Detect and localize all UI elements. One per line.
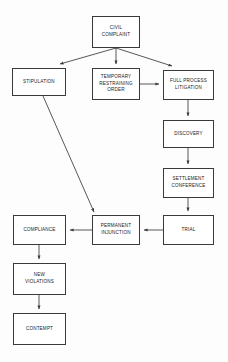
- node-label-permanent-injunction: PERMANENT INJUNCTION: [99, 223, 133, 237]
- node-label-discovery: DISCOVERY: [172, 131, 205, 138]
- edge-complaint-litigation: [116, 48, 172, 66]
- flowchart-canvas: CIVIL COMPLAINT STIPULATION TEMPORARY RE…: [0, 0, 228, 362]
- node-compliance[interactable]: COMPLIANCE: [13, 215, 66, 245]
- node-label-temporary-restraining-order: TEMPORARY RESTRAINING ORDER: [97, 74, 134, 95]
- node-label-compliance: COMPLIANCE: [21, 227, 57, 234]
- node-trial[interactable]: TRIAL: [163, 215, 214, 245]
- node-civil-complaint[interactable]: CIVIL COMPLAINT: [92, 16, 140, 48]
- node-label-stipulation: STIPULATION: [21, 79, 57, 86]
- node-new-violations[interactable]: NEW VIOLATIONS: [13, 263, 66, 295]
- node-label-contempt: CONTEMPT: [24, 326, 55, 333]
- node-contempt[interactable]: CONTEMPT: [13, 313, 66, 345]
- node-settlement-conference[interactable]: SETTLEMENT CONFERENCE: [163, 168, 214, 198]
- node-full-process-litigation[interactable]: FULL PROCESS LITIGATION: [163, 70, 214, 100]
- node-label-trial: TRIAL: [180, 227, 198, 234]
- edge-stipulation-injunction: [43, 96, 94, 212]
- node-label-civil-complaint: CIVIL COMPLAINT: [100, 25, 132, 39]
- node-permanent-injunction[interactable]: PERMANENT INJUNCTION: [92, 215, 140, 245]
- node-label-new-violations: NEW VIOLATIONS: [23, 272, 56, 286]
- node-label-full-process-litigation: FULL PROCESS LITIGATION: [168, 78, 209, 92]
- node-temporary-restraining-order[interactable]: TEMPORARY RESTRAINING ORDER: [92, 68, 140, 100]
- edge-complaint-stipulation: [60, 48, 116, 64]
- node-label-settlement-conference: SETTLEMENT CONFERENCE: [170, 176, 208, 190]
- node-stipulation[interactable]: STIPULATION: [12, 68, 66, 96]
- node-discovery[interactable]: DISCOVERY: [163, 120, 214, 148]
